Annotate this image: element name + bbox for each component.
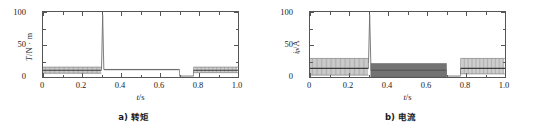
x-tick-label-torque-0: 0 xyxy=(27,81,57,90)
x-tick-label-current-0.6: 0.6 xyxy=(411,81,441,90)
y-tick-label-current-100: 100 xyxy=(267,8,293,17)
y-tick-label-torque-100: 100 xyxy=(0,8,26,17)
y-tick-label-current-0: 0 xyxy=(267,72,293,81)
y-axis-label-torque-var: T xyxy=(24,56,34,61)
x-tick-label-current-0.8: 0.8 xyxy=(450,81,480,90)
caption-torque: a) 转矩 xyxy=(0,110,267,122)
y-tick-torque-0 xyxy=(43,78,47,79)
y-tick-right-torque-0 xyxy=(234,78,238,79)
x-tick-label-torque-0.8: 0.8 xyxy=(183,81,213,90)
plot-area-torque xyxy=(42,11,239,78)
x-tick-label-torque-0.4: 0.4 xyxy=(105,81,135,90)
x-tick-current-1.0 xyxy=(505,73,506,77)
y-tick-label-torque-50: 50 xyxy=(0,40,26,49)
x-tick-label-torque-0.2: 0.2 xyxy=(66,81,96,90)
panel-current: ip/A 100 50 0 xyxy=(267,0,534,131)
x-tick-label-current-0.4: 0.4 xyxy=(372,81,402,90)
x-axis-label-current-unit: /s xyxy=(406,92,412,102)
x-tick-top-current-1.0 xyxy=(505,12,506,16)
y-tick-right-current-0 xyxy=(501,78,505,79)
panel-torque: T/N · m 100 50 0 xyxy=(0,0,267,131)
x-axis-label-torque-unit: /s xyxy=(139,92,145,102)
plot-area-current xyxy=(309,11,506,78)
x-axis-label-torque: t/s xyxy=(42,92,239,102)
figure-container: T/N · m 100 50 0 xyxy=(0,0,535,131)
x-tick-label-current-1.0: 1.0 xyxy=(489,81,519,90)
x-tick-torque-1.0 xyxy=(238,73,239,77)
x-tick-label-torque-0.6: 0.6 xyxy=(144,81,174,90)
x-axis-label-current: t/s xyxy=(309,92,506,102)
data-series-current xyxy=(310,12,505,77)
x-tick-label-current-0.2: 0.2 xyxy=(333,81,363,90)
caption-current: b) 电流 xyxy=(267,110,534,122)
y-tick-label-torque-0: 0 xyxy=(0,72,26,81)
data-series-torque xyxy=(43,12,238,77)
y-axis-label-current-sub: p xyxy=(293,49,300,52)
y-tick-label-current-50: 50 xyxy=(267,40,293,49)
y-tick-current-0 xyxy=(310,78,314,79)
x-tick-label-current-0: 0 xyxy=(294,81,324,90)
x-tick-top-torque-1.0 xyxy=(238,12,239,16)
y-axis-label-current-var: i xyxy=(291,52,301,55)
x-tick-label-torque-1.0: 1.0 xyxy=(222,81,252,90)
